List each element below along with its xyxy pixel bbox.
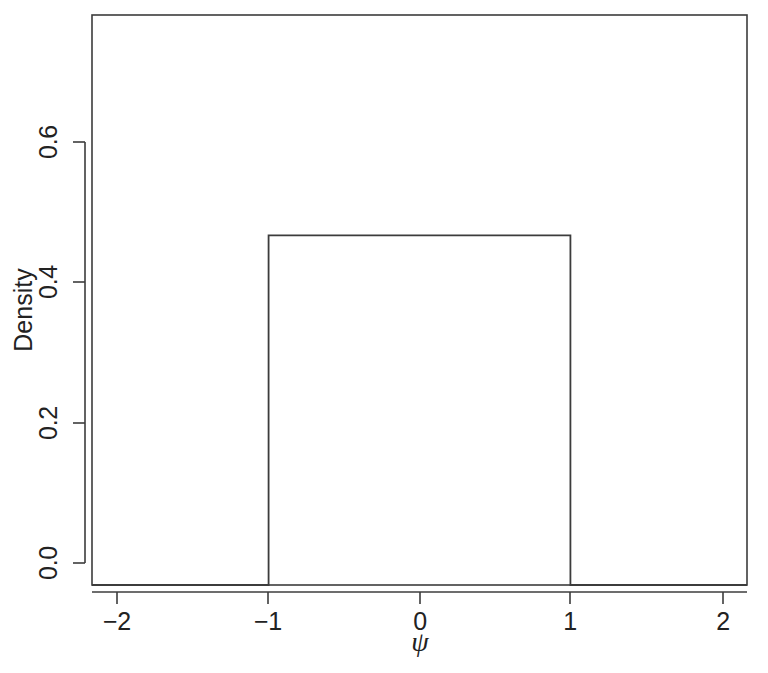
x-tick-label-1: 1 xyxy=(563,607,577,636)
y-tick-label-0.6: 0.6 xyxy=(34,125,63,159)
y-axis-ticks xyxy=(73,142,85,563)
x-tick-label-2: 2 xyxy=(716,607,730,636)
y-tick-label-0.0: 0.0 xyxy=(34,546,63,580)
y-tick-label-0.2: 0.2 xyxy=(34,406,63,440)
plot-frame xyxy=(92,15,747,585)
plot-canvas xyxy=(0,0,768,673)
x-axis-ticks xyxy=(117,592,723,604)
y-tick-label-0.4: 0.4 xyxy=(34,265,63,299)
density-step-curve xyxy=(92,235,747,585)
x-tick-label--2: −2 xyxy=(103,607,131,636)
x-tick-label--1: −1 xyxy=(254,607,282,636)
y-axis-label: Density xyxy=(9,268,38,351)
density-plot-figure: −2 −1 0 1 2 0.0 0.2 0.4 0.6 Density ψ xyxy=(0,0,768,673)
x-axis-label: ψ xyxy=(411,626,428,658)
